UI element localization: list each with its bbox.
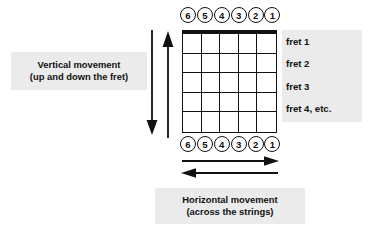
fret-label-1: fret 1 [286,36,309,49]
fret-label-4: fret 4, etc. [286,103,331,116]
fret-cell [220,93,239,113]
string-circle-5: 5 [197,7,213,23]
string-circle-3: 3 [231,7,247,23]
fret-cell [183,93,202,113]
string-circle-2: 2 [248,136,264,152]
string-circle-6: 6 [180,7,196,23]
fret-cell [239,34,258,54]
down-arrow [147,30,158,135]
vertical-caption-line-1: Vertical movement [38,59,121,71]
vertical-movement-caption: Vertical movement (up and down the fret) [11,52,147,90]
fret-cell [202,73,221,93]
string-numbers-bottom: 6 5 4 3 2 1 [180,136,279,152]
fret-cell [183,112,202,132]
left-arrow [181,168,278,178]
string-circle-4: 4 [214,7,230,23]
fret-cell [220,112,239,132]
fret-cell [202,93,221,113]
horizontal-caption-line-2: (across the strings) [186,206,273,218]
up-arrow [163,31,174,138]
fret-cell [202,34,221,54]
fret-cell [257,93,276,113]
string-circle-5: 5 [197,136,213,152]
fretboard-grid [182,30,277,133]
fret-cell [220,73,239,93]
horizontal-movement-caption: Horizontal movement (across the strings) [155,188,305,224]
fret-cell [202,112,221,132]
string-circle-4: 4 [214,136,230,152]
fret-label-2: fret 2 [286,58,309,71]
fret-cell [239,112,258,132]
string-circle-1: 1 [264,7,280,23]
fret-cell [257,54,276,74]
fret-cell [220,54,239,74]
fret-cell [183,54,202,74]
fret-cell [257,73,276,93]
horizontal-movement-arrows [178,155,282,181]
fret-cell [239,54,258,74]
string-circle-3: 3 [231,136,247,152]
fret-labels-list: fret 1 fret 2 fret 3 fret 4, etc. [282,30,362,122]
fret-cell [220,34,239,54]
fret-cell [183,73,202,93]
fret-label-3: fret 3 [286,81,309,94]
vertical-movement-arrows [142,28,178,140]
fret-cell [183,34,202,54]
string-circle-2: 2 [248,7,264,23]
string-numbers-top: 6 5 4 3 2 1 [180,7,279,23]
fret-cell [202,54,221,74]
right-arrow [182,156,279,166]
fret-cell [257,112,276,132]
horizontal-caption-line-1: Horizontal movement [182,194,277,206]
fret-cell [239,73,258,93]
fret-cell [239,93,258,113]
string-circle-6: 6 [180,136,196,152]
string-circle-1: 1 [264,136,280,152]
vertical-caption-line-2: (up and down the fret) [30,71,128,83]
fret-cell [257,34,276,54]
